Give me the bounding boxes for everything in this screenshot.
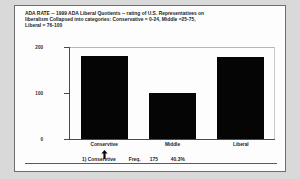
footer-index-label: 1) Conservtive [82,157,116,162]
x-label-liberal: Liberal [201,142,281,147]
x-axis-line [69,139,275,140]
chart-panel: ADA RATE -- 1999 ADA Liberal Quotients -… [14,5,286,172]
footer-percent-value: 40.3% [171,157,185,162]
chart-title-line-3: Liberal = 76-100 [25,23,277,29]
y-tick-mark [64,139,70,140]
footer-status: 1) ConservtiveFreq.17540.3% [25,153,277,164]
bar-liberal[interactable] [217,57,264,139]
footer-freq-label: Freq. [129,157,141,162]
y-tick-label: 0 [21,137,43,142]
screenshot-root: ADA RATE -- 1999 ADA Liberal Quotients -… [0,0,300,179]
y-tick-label: 200 [21,45,43,50]
chart-title: ADA RATE -- 1999 ADA Liberal Quotients -… [25,11,277,30]
bar-chart: 0100200 ConservtiveMiddleLiberal [55,41,275,146]
footer-freq-value: 175 [150,157,158,162]
bar-conservtive[interactable] [81,56,128,139]
footer-divider [25,163,277,164]
y-tick-label: 100 [21,91,43,96]
bar-middle[interactable] [149,93,196,139]
plot-area [70,47,275,139]
footer-text: 1) ConservtiveFreq.17540.3% [82,157,185,162]
